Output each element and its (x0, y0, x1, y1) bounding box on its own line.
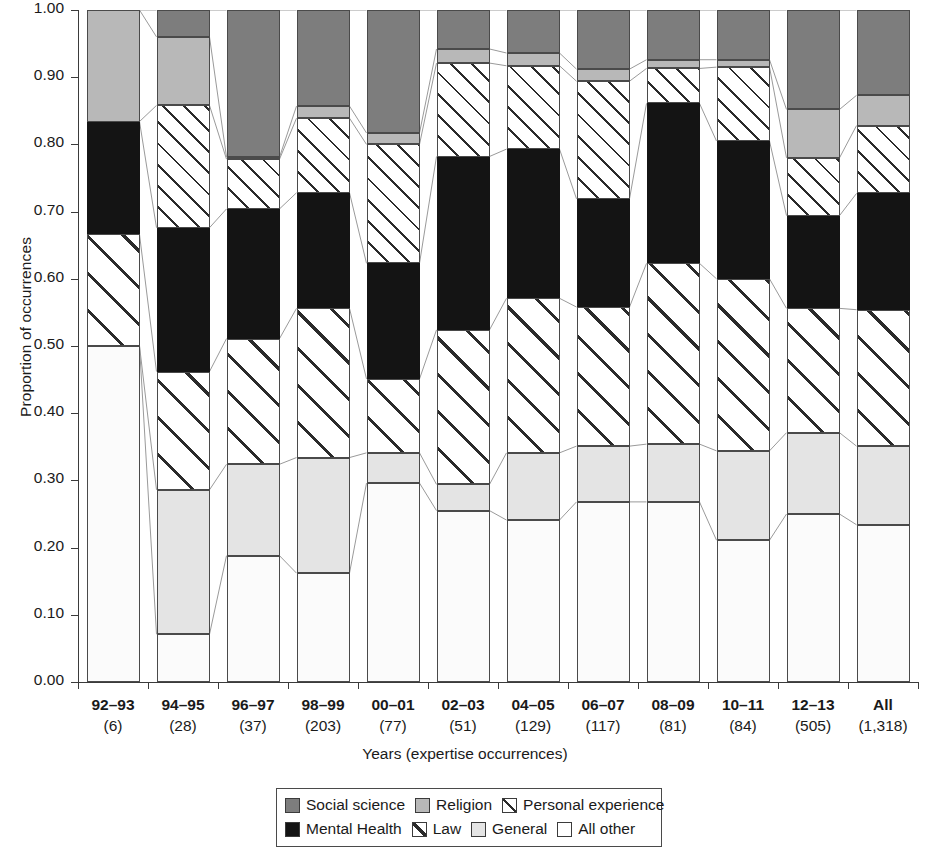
bar-segment-mental[interactable] (717, 141, 770, 279)
bar-segment-law[interactable] (577, 307, 630, 446)
bar-segment-mental[interactable] (437, 157, 490, 330)
bar-1213[interactable] (787, 10, 840, 682)
bar-segment-allother[interactable] (87, 346, 140, 682)
bar-segment-personal[interactable] (647, 68, 700, 103)
bar-segment-personal[interactable] (577, 81, 630, 199)
bar-segment-religion[interactable] (437, 49, 490, 63)
bar-segment-general[interactable] (367, 453, 420, 483)
bar-segment-social[interactable] (227, 10, 280, 157)
bar-segment-social[interactable] (437, 10, 490, 49)
bar-segment-general[interactable] (507, 453, 560, 520)
bar-segment-general[interactable] (297, 458, 350, 574)
bar-segment-personal[interactable] (717, 67, 770, 141)
bar-segment-personal[interactable] (787, 158, 840, 216)
bar-segment-religion[interactable] (717, 60, 770, 67)
legend-item-mental[interactable]: Mental Health (285, 820, 402, 838)
bar-segment-allother[interactable] (787, 514, 840, 682)
bar-segment-social[interactable] (297, 10, 350, 106)
bar-segment-mental[interactable] (157, 228, 210, 372)
legend-item-general[interactable]: General (471, 820, 547, 838)
bar-segment-personal[interactable] (297, 118, 350, 193)
bar-segment-social[interactable] (157, 10, 210, 37)
bar-segment-law[interactable] (857, 310, 910, 446)
legend-item-law[interactable]: Law (412, 820, 461, 838)
bar-segment-mental[interactable] (367, 263, 420, 379)
bar-segment-law[interactable] (367, 379, 420, 453)
bar-segment-allother[interactable] (717, 540, 770, 682)
bar-segment-law[interactable] (227, 339, 280, 465)
legend-item-personal[interactable]: Personal experience (502, 796, 664, 814)
bar-segment-mental[interactable] (87, 122, 140, 235)
bar-segment-religion[interactable] (367, 133, 420, 144)
bar-9697[interactable] (227, 10, 280, 682)
bar-segment-religion[interactable] (157, 37, 210, 106)
bar-segment-mental[interactable] (297, 193, 350, 309)
bar-9899[interactable] (297, 10, 350, 682)
bar-segment-general[interactable] (647, 444, 700, 502)
bar-segment-general[interactable] (787, 433, 840, 514)
bar-segment-religion[interactable] (647, 60, 700, 69)
bar-segment-mental[interactable] (507, 149, 560, 298)
bar-segment-religion[interactable] (227, 157, 280, 159)
bar-segment-mental[interactable] (787, 216, 840, 309)
bar-segment-personal[interactable] (367, 144, 420, 263)
bar-0001[interactable] (367, 10, 420, 682)
legend-item-social[interactable]: Social science (285, 796, 405, 814)
bar-segment-religion[interactable] (507, 53, 560, 66)
bar-segment-allother[interactable] (437, 511, 490, 682)
bar-0607[interactable] (577, 10, 630, 682)
bar-9293[interactable] (87, 10, 140, 682)
bar-segment-allother[interactable] (647, 502, 700, 682)
bar-segment-religion[interactable] (857, 95, 910, 125)
bar-9495[interactable] (157, 10, 210, 682)
bar-segment-law[interactable] (157, 372, 210, 490)
bar-segment-religion[interactable] (297, 106, 350, 118)
bar-segment-law[interactable] (87, 234, 140, 346)
bar-segment-allother[interactable] (227, 556, 280, 682)
bar-segment-religion[interactable] (87, 10, 140, 122)
bar-segment-allother[interactable] (297, 573, 350, 682)
bar-segment-law[interactable] (647, 263, 700, 444)
bar-segment-social[interactable] (647, 10, 700, 60)
bar-segment-personal[interactable] (157, 105, 210, 227)
bar-0405[interactable] (507, 10, 560, 682)
bar-segment-law[interactable] (297, 308, 350, 457)
bar-segment-allother[interactable] (507, 520, 560, 682)
bar-segment-mental[interactable] (577, 199, 630, 307)
bar-segment-mental[interactable] (857, 193, 910, 309)
bar-segment-social[interactable] (717, 10, 770, 60)
bar-segment-general[interactable] (157, 490, 210, 634)
bar-0809[interactable] (647, 10, 700, 682)
bar-segment-personal[interactable] (227, 159, 280, 209)
bar-segment-allother[interactable] (157, 634, 210, 682)
bar-segment-general[interactable] (577, 446, 630, 502)
bar-segment-social[interactable] (857, 10, 910, 95)
bar-All[interactable] (857, 10, 910, 682)
bar-segment-social[interactable] (787, 10, 840, 109)
bar-segment-social[interactable] (507, 10, 560, 53)
bar-segment-personal[interactable] (437, 63, 490, 156)
bar-0203[interactable] (437, 10, 490, 682)
bar-segment-general[interactable] (437, 484, 490, 510)
bar-segment-social[interactable] (367, 10, 420, 133)
bar-segment-personal[interactable] (507, 66, 560, 149)
bar-1011[interactable] (717, 10, 770, 682)
bar-segment-general[interactable] (717, 451, 770, 540)
bar-segment-personal[interactable] (857, 126, 910, 194)
bar-segment-social[interactable] (577, 10, 630, 69)
bar-segment-mental[interactable] (647, 103, 700, 263)
bar-segment-allother[interactable] (577, 502, 630, 682)
bar-segment-law[interactable] (717, 279, 770, 451)
bar-segment-law[interactable] (507, 298, 560, 453)
bar-segment-mental[interactable] (227, 209, 280, 339)
bar-segment-general[interactable] (857, 446, 910, 525)
legend-item-religion[interactable]: Religion (415, 796, 492, 814)
bar-segment-religion[interactable] (787, 109, 840, 157)
legend-item-allother[interactable]: All other (557, 820, 635, 838)
bar-segment-allother[interactable] (367, 483, 420, 682)
bar-segment-law[interactable] (787, 308, 840, 432)
bar-segment-allother[interactable] (857, 525, 910, 682)
bar-segment-general[interactable] (227, 464, 280, 555)
bar-segment-religion[interactable] (577, 69, 630, 81)
bar-segment-law[interactable] (437, 330, 490, 485)
